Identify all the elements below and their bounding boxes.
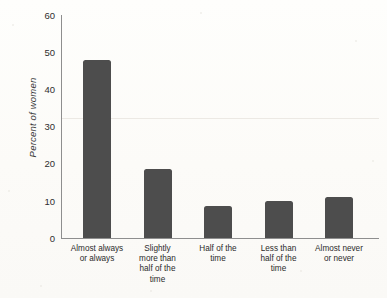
plot-area: 0102030405060 Almost alwaysor alwaysSlig…	[61, 15, 379, 239]
y-tick-label: 60	[23, 10, 55, 21]
x-tick-label-line: or always	[67, 254, 127, 264]
scan-speck	[300, 270, 302, 272]
y-tick-label: 0	[23, 232, 55, 243]
scan-speck	[372, 160, 374, 162]
x-tick-label: Slightlymore thanhalf of thetime	[128, 244, 188, 285]
bar	[83, 60, 111, 238]
x-tick-label-line: Almost always	[67, 244, 127, 254]
x-tick-label-line: Slightly	[128, 244, 188, 254]
scan-speck	[40, 285, 42, 287]
x-tick-label-line: time	[188, 254, 248, 264]
x-tick-label: Almost neveror never	[309, 244, 369, 264]
scan-speck	[8, 190, 10, 192]
y-tick-label: 50	[23, 47, 55, 58]
y-axis-line	[61, 15, 62, 239]
x-axis-line	[61, 238, 379, 239]
bar	[265, 201, 293, 238]
y-tick-label: 40	[23, 84, 55, 95]
y-tick-label: 30	[23, 121, 55, 132]
x-tick-label: Almost alwaysor always	[67, 244, 127, 264]
bar	[204, 206, 232, 238]
y-tick-label: 20	[23, 158, 55, 169]
scan-speck	[355, 40, 357, 42]
y-tick-label: 10	[23, 195, 55, 206]
scan-speck	[12, 24, 14, 26]
x-tick-label-line: Half of the	[188, 244, 248, 254]
x-tick-label-line: Less than	[249, 244, 309, 254]
x-tick-label-line: Almost never	[309, 244, 369, 254]
bar	[144, 169, 172, 238]
scan-speck	[200, 12, 202, 14]
scan-speck	[150, 290, 152, 292]
bar-chart-figure: Percent of women 0102030405060 Almost al…	[0, 0, 387, 298]
bar	[325, 197, 353, 238]
x-tick-label-line: more than	[128, 254, 188, 264]
x-tick-label: Half of thetime	[188, 244, 248, 264]
x-tick-label-line: time	[128, 275, 188, 285]
x-tick-label-line: half of the	[249, 254, 309, 264]
x-tick-label-line: or never	[309, 254, 369, 264]
x-tick-label-line: half of the	[128, 264, 188, 274]
